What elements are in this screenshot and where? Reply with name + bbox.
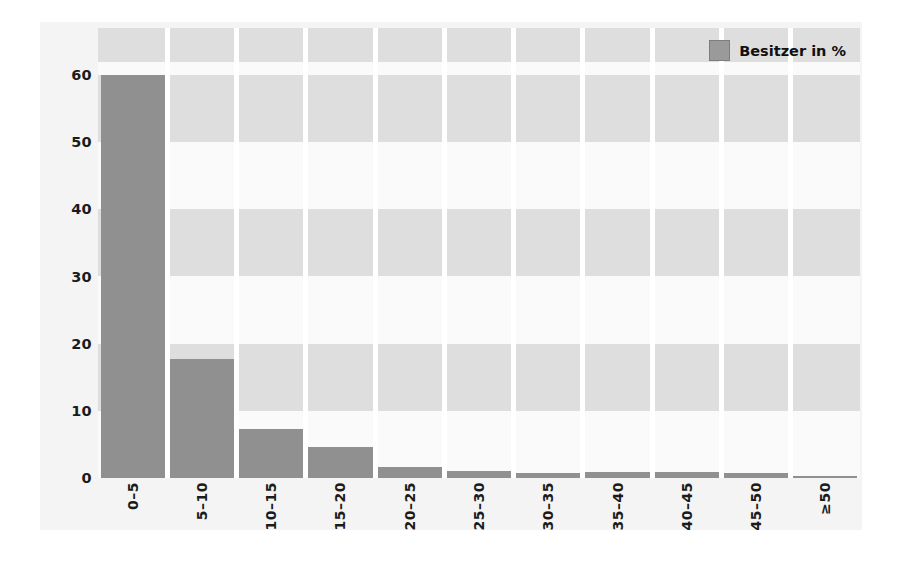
column-gutter — [719, 28, 724, 478]
x-tick-label: 45–50 — [721, 482, 790, 562]
x-tick-label: 40–45 — [652, 482, 721, 562]
x-tick-label: 15–20 — [306, 482, 375, 562]
bar — [170, 359, 234, 478]
y-tick-label: 50 — [46, 134, 92, 150]
x-tick-label: 5–10 — [167, 482, 236, 562]
column-gutter — [442, 28, 447, 478]
column-gutter — [650, 28, 655, 478]
column-gutter — [511, 28, 516, 478]
bar — [239, 429, 303, 478]
y-tick-label: 40 — [46, 201, 92, 217]
grid-band — [98, 75, 860, 142]
legend-swatch-besitzer — [709, 40, 730, 61]
x-tick-label: 20–25 — [375, 482, 444, 562]
bar — [655, 472, 719, 478]
bar — [724, 473, 788, 478]
chart-legend: Besitzer in % — [709, 40, 846, 61]
bar — [101, 75, 165, 478]
column-gutter — [234, 28, 239, 478]
y-axis: 0102030405060 — [0, 28, 92, 478]
column-gutter — [373, 28, 378, 478]
chart-figure: 0102030405060 Besitzer in % 0–55–1010–15… — [0, 0, 897, 565]
y-tick-label: 10 — [46, 403, 92, 419]
y-tick-label: 60 — [46, 67, 92, 83]
plot-area: Besitzer in % — [98, 28, 860, 478]
column-gutter — [580, 28, 585, 478]
grid-band — [98, 209, 860, 276]
column-gutter — [788, 28, 793, 478]
x-tick-label: ≥50 — [791, 482, 860, 562]
bar — [308, 447, 372, 478]
bar — [378, 467, 442, 478]
column-gutter — [303, 28, 308, 478]
x-tick-label: 30–35 — [514, 482, 583, 562]
y-tick-label: 20 — [46, 336, 92, 352]
bar — [447, 471, 511, 478]
y-tick-label: 0 — [46, 470, 92, 486]
bar — [516, 473, 580, 478]
column-gutter — [165, 28, 170, 478]
x-tick-label: 35–40 — [583, 482, 652, 562]
x-tick-label: 10–15 — [237, 482, 306, 562]
x-tick-label: 25–30 — [444, 482, 513, 562]
bar — [585, 472, 649, 478]
legend-label-besitzer: Besitzer in % — [739, 43, 846, 59]
bar — [793, 476, 857, 478]
y-tick-label: 30 — [46, 269, 92, 285]
x-axis: 0–55–1010–1515–2020–2525–3030–3535–4040–… — [98, 482, 860, 562]
x-tick-label: 0–5 — [98, 482, 167, 562]
